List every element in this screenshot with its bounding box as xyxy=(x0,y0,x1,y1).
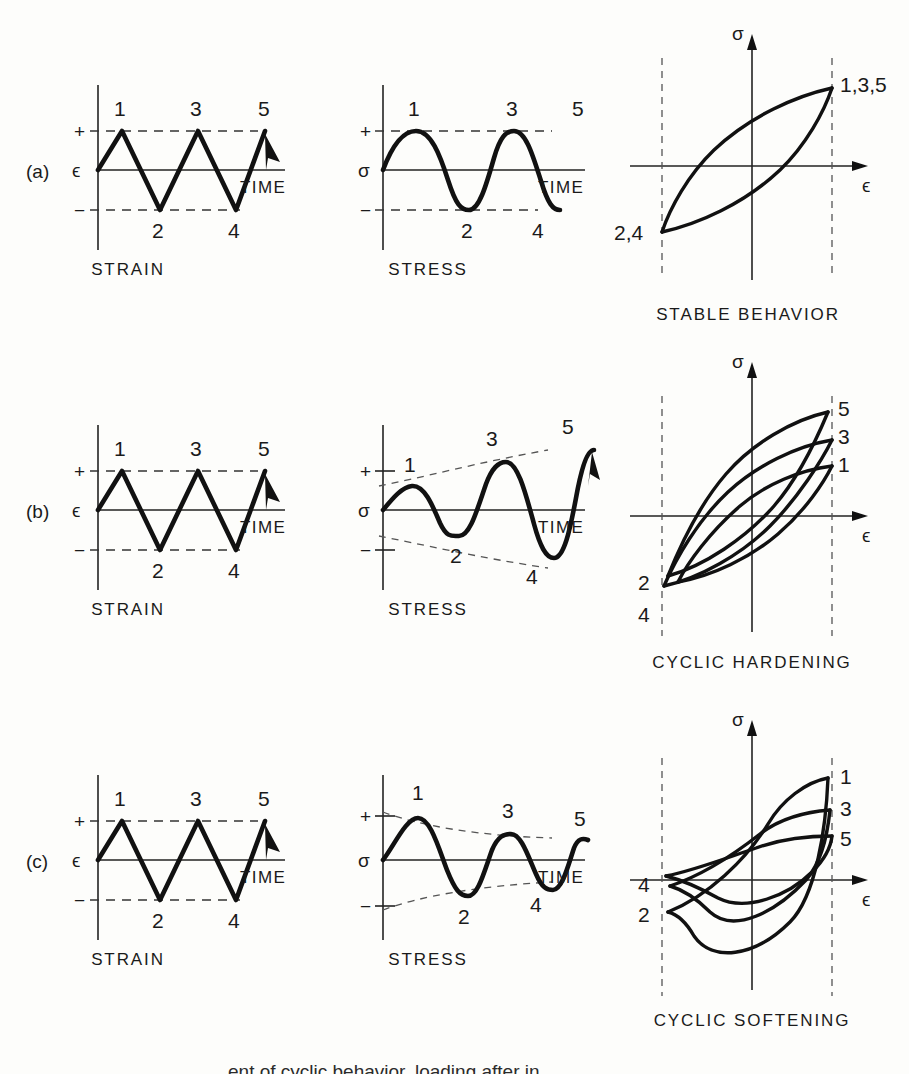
loop-label-left-low: 4 xyxy=(638,603,650,626)
axis-label-strain-symbol: ϵ xyxy=(862,889,870,910)
stress-peak-label-1: 1 xyxy=(404,453,416,476)
axis-tick-minus: − xyxy=(74,890,85,911)
strain-peak-label-5: 5 xyxy=(258,97,270,120)
axis-tick-minus: − xyxy=(74,200,85,221)
axis-label-time: TIME xyxy=(240,178,286,197)
axis-label-time: TIME xyxy=(240,868,286,887)
axis-tick-plus: + xyxy=(360,121,371,142)
panel-stress-b: 1 3 5 2 4 + σ − TIME STRESS xyxy=(300,350,600,690)
strain-valley-label-2: 2 xyxy=(152,909,164,932)
axis-tick-plus: + xyxy=(74,461,85,482)
axis-label-strain-symbol: ϵ xyxy=(862,525,870,546)
axis-label-strain-symbol: ϵ xyxy=(72,160,80,181)
strain-valley-label-4: 4 xyxy=(228,909,240,932)
caption-stress: STRESS xyxy=(388,950,467,969)
caption-strain: STRAIN xyxy=(91,600,165,619)
figure-cyclic-behavior: 1 3 5 2 4 + ϵ − TIME (a) STRAIN 1 xyxy=(0,0,909,1074)
stress-valley-label-2: 2 xyxy=(458,905,470,928)
stress-valley-label-2: 2 xyxy=(450,544,462,567)
caption-loop-c: CYCLIC SOFTENING xyxy=(654,1011,851,1030)
axis-label-time: TIME xyxy=(240,518,286,537)
stress-valley-label-4: 4 xyxy=(532,219,544,242)
loop-label-right-mid: 3 xyxy=(838,425,850,448)
caption-loop-b: CYCLIC HARDENING xyxy=(652,653,851,672)
axis-tick-plus: + xyxy=(360,461,371,482)
axis-label-strain-symbol: ϵ xyxy=(72,500,80,521)
axis-label-stress-symbol: σ xyxy=(358,500,370,521)
row-label-a: (a) xyxy=(26,161,49,182)
axis-tick-plus: + xyxy=(74,121,85,142)
axis-label-stress-symbol: σ xyxy=(732,23,744,44)
loop-label-lower-left: 2,4 xyxy=(614,221,644,244)
strain-peak-label-3: 3 xyxy=(190,97,202,120)
figure-row-a: 1 3 5 2 4 + ϵ − TIME (a) STRAIN 1 xyxy=(0,10,909,350)
strain-peak-label-5: 5 xyxy=(258,437,270,460)
panel-strain-b: 1 3 5 2 4 + ϵ − TIME (b) STRAIN xyxy=(0,350,300,690)
panel-hysteresis-a: σ ϵ 1,3,5 2,4 STABLE BEHAVIOR xyxy=(600,10,909,350)
axis-label-stress-symbol: σ xyxy=(358,850,370,871)
panel-stress-a: 1 3 5 2 4 + σ − TIME STRESS xyxy=(300,10,600,350)
axis-tick-plus: + xyxy=(360,806,371,827)
stress-peak-label-5: 5 xyxy=(574,807,586,830)
loop-label-upper-right: 1,3,5 xyxy=(840,73,887,96)
caption-strain: STRAIN xyxy=(91,260,165,279)
row-label-b: (b) xyxy=(26,501,49,522)
axis-label-stress-symbol: σ xyxy=(732,709,744,730)
stress-valley-label-2: 2 xyxy=(461,219,473,242)
strain-valley-label-4: 4 xyxy=(228,559,240,582)
axis-tick-minus: − xyxy=(74,540,85,561)
loop-label-right-top: 1 xyxy=(840,765,852,788)
caption-stress: STRESS xyxy=(388,260,467,279)
loop-label-right-low: 5 xyxy=(840,827,852,850)
stress-valley-label-4: 4 xyxy=(526,565,538,588)
strain-peak-label-3: 3 xyxy=(190,437,202,460)
loop-label-left-up: 4 xyxy=(638,873,650,896)
axis-label-strain-symbol: ϵ xyxy=(862,175,870,196)
strain-valley-label-2: 2 xyxy=(152,219,164,242)
stress-peak-label-3: 3 xyxy=(502,799,514,822)
stress-peak-label-5: 5 xyxy=(562,415,574,438)
figure-row-c: 1 3 5 2 4 + ϵ − TIME (c) STRAIN xyxy=(0,700,909,1040)
strain-peak-label-1: 1 xyxy=(114,97,126,120)
bottom-caption-clipped: ent of cyclic behavior, loading after in xyxy=(0,1062,909,1074)
loop-label-left-low: 2 xyxy=(638,903,650,926)
stress-peak-label-5: 5 xyxy=(572,97,584,120)
loop-label-right-low: 1 xyxy=(838,453,850,476)
axis-label-stress-symbol: σ xyxy=(358,160,370,181)
axis-label-time: TIME xyxy=(538,518,584,537)
loop-label-right-top: 5 xyxy=(838,397,850,420)
axis-label-strain-symbol: ϵ xyxy=(72,850,80,871)
caption-stress: STRESS xyxy=(388,600,467,619)
axis-tick-plus: + xyxy=(74,811,85,832)
stress-peak-label-1: 1 xyxy=(412,781,424,804)
stress-peak-label-3: 3 xyxy=(486,427,498,450)
panel-strain-c: 1 3 5 2 4 + ϵ − TIME (c) STRAIN xyxy=(0,700,300,1040)
stress-valley-label-4: 4 xyxy=(530,893,542,916)
caption-strain: STRAIN xyxy=(91,950,165,969)
panel-strain-a: 1 3 5 2 4 + ϵ − TIME (a) STRAIN xyxy=(0,10,300,350)
bottom-caption-text: ent of cyclic behavior, loading after in xyxy=(228,1062,909,1074)
caption-loop-a: STABLE BEHAVIOR xyxy=(656,305,840,324)
strain-valley-label-2: 2 xyxy=(152,559,164,582)
axis-label-time: TIME xyxy=(538,178,584,197)
axis-label-stress-symbol: σ xyxy=(732,351,744,372)
panel-hysteresis-b: σ ϵ 5 3 1 2 4 CYCLIC HARDENING xyxy=(600,350,909,690)
axis-tick-minus: − xyxy=(360,540,371,561)
axis-tick-minus: − xyxy=(360,896,371,917)
loop-label-left-up: 2 xyxy=(638,571,650,594)
strain-peak-label-1: 1 xyxy=(114,437,126,460)
panel-hysteresis-c: σ ϵ 1 3 5 4 2 CYCLIC SOFTENING xyxy=(600,700,909,1040)
row-label-c: (c) xyxy=(26,851,48,872)
strain-peak-label-5: 5 xyxy=(258,787,270,810)
axis-label-time: TIME xyxy=(538,868,584,887)
strain-peak-label-3: 3 xyxy=(190,787,202,810)
panel-stress-c: 1 3 5 2 4 + σ − TIME STRESS xyxy=(300,700,600,1040)
axis-tick-minus: − xyxy=(360,200,371,221)
stress-peak-label-3: 3 xyxy=(506,97,518,120)
loop-label-right-mid: 3 xyxy=(840,797,852,820)
stress-peak-label-1: 1 xyxy=(408,97,420,120)
figure-row-b: 1 3 5 2 4 + ϵ − TIME (b) STRAIN xyxy=(0,350,909,690)
strain-valley-label-4: 4 xyxy=(228,219,240,242)
strain-peak-label-1: 1 xyxy=(114,787,126,810)
